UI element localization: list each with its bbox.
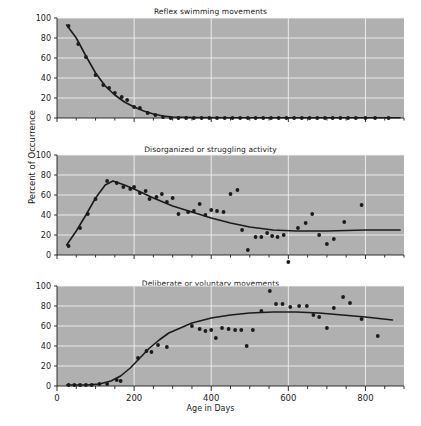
svg-text:0: 0 <box>54 393 59 403</box>
svg-text:0: 0 <box>46 251 51 260</box>
chart-panel-deliberate-movements: Deliberate or voluntary movements 020406… <box>0 272 421 426</box>
svg-text:80: 80 <box>41 302 51 311</box>
svg-text:100: 100 <box>36 151 51 160</box>
svg-text:60: 60 <box>41 191 51 200</box>
svg-text:200: 200 <box>126 393 142 403</box>
svg-text:0: 0 <box>46 114 51 123</box>
x-axis-label: Age in Days <box>0 404 421 413</box>
svg-text:20: 20 <box>41 94 51 103</box>
svg-text:20: 20 <box>41 231 51 240</box>
plot-area-disorganized-activity: 020406080100 <box>0 138 421 274</box>
plot-area-reflex-swimming: 020406080100 <box>0 0 421 140</box>
figure-panel-group: Reflex swimming movements 020406080100 D… <box>0 0 421 426</box>
svg-text:60: 60 <box>41 322 51 331</box>
svg-text:40: 40 <box>41 211 51 220</box>
svg-text:800: 800 <box>357 393 373 403</box>
svg-text:100: 100 <box>36 282 51 291</box>
chart-panel-reflex-swimming: Reflex swimming movements 020406080100 <box>0 0 421 140</box>
svg-text:0: 0 <box>46 382 51 391</box>
svg-text:40: 40 <box>41 342 51 351</box>
svg-text:600: 600 <box>280 393 296 403</box>
svg-text:20: 20 <box>41 362 51 371</box>
svg-text:400: 400 <box>203 393 219 403</box>
plot-svg: 020406080100 <box>0 138 421 274</box>
plot-area-deliberate-movements: 0204060801000200400600800 <box>0 272 421 426</box>
plot-svg: 0204060801000200400600800 <box>0 272 421 426</box>
plot-svg: 020406080100 <box>0 0 421 140</box>
svg-text:40: 40 <box>41 74 51 83</box>
svg-text:80: 80 <box>41 171 51 180</box>
y-axis-label: Percent of Occurrence <box>27 77 37 237</box>
chart-panel-disorganized-activity: Disorganized or struggling activity 0204… <box>0 138 421 274</box>
svg-text:60: 60 <box>41 54 51 63</box>
svg-text:100: 100 <box>36 14 51 23</box>
svg-text:80: 80 <box>41 34 51 43</box>
